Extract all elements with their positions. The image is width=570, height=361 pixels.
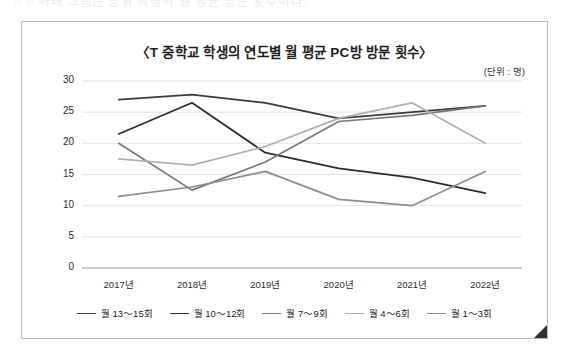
chart-document-frame: 〈T 중학교 학생의 연도별 월 평균 PC방 방문 횟수〉 (단위 : 명) …: [21, 21, 548, 339]
legend-label: 월 1～3회: [451, 306, 492, 320]
x-axis-tick-label: 2019년: [229, 277, 301, 291]
y-axis-tick-label: 10: [44, 199, 74, 210]
legend-swatch-icon: [77, 313, 96, 314]
y-axis-tick-label: 0: [44, 261, 74, 272]
y-axis-tick-label: 5: [44, 230, 74, 241]
legend-item-1[interactable]: 월 13～15회: [77, 306, 153, 320]
chart-legend: 월 13～15회월 10～12회월 7～9회월 4～6회월 1～3회: [22, 306, 547, 320]
x-axis-tick-label: 2018년: [156, 277, 228, 291]
legend-item-5[interactable]: 월 1～3회: [427, 306, 492, 320]
page-top-cut-text: ○ ○ 아래 그림은 상위 학생의 월 평균 방문 횟수이다.: [14, 0, 434, 7]
series-line-2: [119, 103, 486, 193]
page-corner-fold-mark: [534, 325, 547, 338]
legend-swatch-icon: [262, 313, 281, 314]
x-axis-tick-label: 2017년: [83, 277, 155, 291]
x-axis-tick-label: 2020년: [303, 277, 375, 291]
y-axis-tick-label: 30: [44, 74, 74, 85]
legend-swatch-icon: [170, 313, 189, 314]
legend-item-3[interactable]: 월 7～9회: [262, 306, 327, 320]
legend-swatch-icon: [345, 313, 364, 314]
legend-item-4[interactable]: 월 4～6회: [345, 306, 410, 320]
legend-label: 월 7～9회: [286, 306, 327, 320]
chart-plot-area: 051015202530 2017년2018년2019년2020년2021년20…: [22, 22, 549, 340]
line-chart-svg: [22, 22, 549, 340]
legend-swatch-icon: [427, 313, 446, 314]
legend-label: 월 4～6회: [369, 306, 410, 320]
y-axis-tick-label: 15: [44, 168, 74, 179]
series-line-5: [119, 171, 486, 205]
legend-label: 월 10～12회: [194, 306, 246, 320]
legend-label: 월 13～15회: [101, 306, 153, 320]
y-axis-tick-label: 20: [44, 136, 74, 147]
x-axis-tick-label: 2022년: [449, 277, 521, 291]
y-axis-tick-label: 25: [44, 105, 74, 116]
x-axis-tick-label: 2021년: [376, 277, 448, 291]
series-line-1: [119, 95, 486, 119]
legend-item-2[interactable]: 월 10～12회: [170, 306, 246, 320]
series-line-3: [119, 106, 486, 190]
